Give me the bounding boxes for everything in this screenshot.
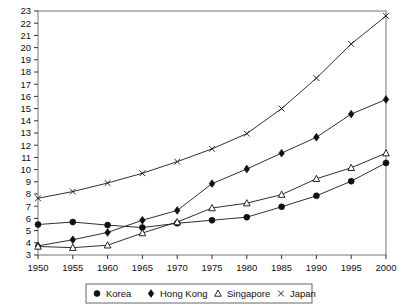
y-tick-label: 5	[26, 225, 31, 236]
x-tick-label: 2000	[375, 262, 396, 273]
y-tick-label: 12	[20, 140, 31, 151]
legend-label: Japan	[290, 288, 316, 299]
y-axis-ticks	[34, 11, 38, 255]
y-tick-label: 13	[20, 127, 31, 138]
marker-filled-circle	[35, 222, 41, 228]
x-tick-label: 1950	[27, 262, 48, 273]
x-tick-label: 1995	[341, 262, 362, 273]
marker-filled-circle	[105, 222, 111, 228]
y-tick-label: 21	[20, 30, 31, 41]
marker-filled-circle	[70, 219, 76, 225]
x-tick-label: 1990	[306, 262, 327, 273]
y-tick-label: 6	[26, 213, 31, 224]
x-tick-label: 1965	[132, 262, 153, 273]
y-tick-label: 20	[20, 42, 31, 53]
x-tick-label: 1970	[167, 262, 188, 273]
marker-filled-circle-legend	[94, 291, 100, 297]
y-tick-label: 16	[20, 91, 31, 102]
x-tick-label: 1985	[271, 262, 292, 273]
marker-filled-circle	[313, 193, 319, 199]
y-tick-label: 23	[20, 5, 31, 16]
marker-filled-circle	[244, 214, 250, 220]
marker-filled-circle	[383, 160, 389, 166]
marker-filled-circle	[348, 178, 354, 184]
y-tick-label: 19	[20, 54, 31, 65]
line-chart: 34567891011121314151617181920212223 1950…	[0, 0, 398, 307]
chart-legend: KoreaHong KongSingaporeJapan	[86, 284, 316, 303]
legend-label: Singapore	[227, 288, 270, 299]
x-tick-label: 1980	[236, 262, 257, 273]
y-tick-label: 11	[21, 152, 31, 163]
x-tick-label: 1975	[201, 262, 222, 273]
y-tick-label: 15	[20, 103, 31, 114]
y-tick-label: 22	[20, 18, 31, 29]
y-tick-label: 18	[20, 66, 31, 77]
y-tick-label: 10	[20, 164, 31, 175]
y-tick-label: 7	[26, 201, 31, 212]
y-tick-label: 8	[26, 188, 31, 199]
y-tick-label: 4	[26, 237, 31, 248]
chart-canvas: 34567891011121314151617181920212223 1950…	[0, 0, 398, 307]
y-tick-label: 17	[20, 79, 31, 90]
marker-filled-circle	[209, 217, 215, 223]
x-tick-label: 1955	[62, 262, 83, 273]
y-tick-label: 14	[20, 115, 31, 126]
x-axis-tick-labels: 1950195519601965197019751980198519901995…	[27, 262, 396, 273]
x-tick-label: 1960	[97, 262, 118, 273]
legend-label: Korea	[106, 288, 132, 299]
legend-label: Hong Kong	[160, 288, 208, 299]
y-tick-label: 9	[26, 176, 31, 187]
marker-filled-circle	[279, 204, 285, 210]
y-tick-label: 3	[26, 249, 31, 260]
